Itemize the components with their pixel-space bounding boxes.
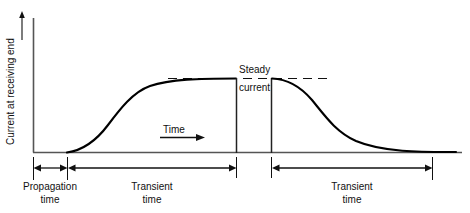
propagation-time-label-line2: time	[41, 194, 60, 205]
transient-current-chart: Current at receiving end Steady current …	[0, 0, 470, 213]
y-axis-label-arrow	[19, 11, 25, 40]
y-axis-label: Current at receiving end	[5, 38, 16, 145]
steady-current-label-line1: Steady	[239, 64, 270, 75]
propagation-time-label-line1: Propagation	[23, 181, 77, 192]
falling-transient-curve	[272, 79, 456, 153]
figure-container: Current at receiving end Steady current …	[0, 0, 470, 213]
rising-transient-curve	[67, 79, 236, 153]
transient-time-2-label-line1: Transient	[331, 181, 373, 192]
transient-time-1-dimension	[68, 165, 237, 172]
steady-current-label-line2: current	[239, 82, 270, 93]
propagation-time-dimension	[34, 165, 68, 172]
transient-time-1-label-line2: time	[143, 194, 162, 205]
transient-time-2-dimension	[272, 165, 433, 172]
time-axis-label: Time	[163, 124, 185, 135]
transient-time-2-label-line2: time	[343, 194, 362, 205]
transient-time-1-label-line1: Transient	[131, 181, 173, 192]
time-arrow	[160, 134, 205, 141]
